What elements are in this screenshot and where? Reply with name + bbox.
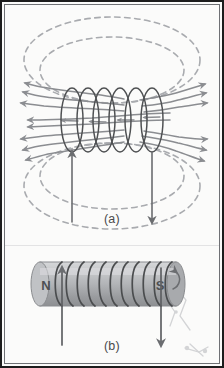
panel-b-caption: (b) [0, 339, 224, 353]
dashed-loop-bottom-inner [40, 143, 184, 209]
field-line-upper-3 [21, 103, 124, 111]
dashed-field-loops-top [24, 17, 200, 103]
solenoid-coil-turns [61, 88, 163, 152]
dashed-loop-top-inner [40, 37, 184, 103]
figure-container: N S (a) (b) [0, 0, 224, 368]
panel-a-artwork [21, 17, 207, 229]
sketch-dot-3 [174, 310, 178, 314]
dashed-loop-top-outer [24, 17, 200, 103]
figure-artwork: N S [0, 0, 224, 368]
panel-a-caption: (a) [0, 212, 224, 226]
interior-arrow-1 [62, 121, 78, 122]
north-pole-label: N [41, 278, 50, 293]
